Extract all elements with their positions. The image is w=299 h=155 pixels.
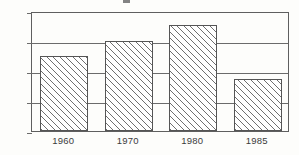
bar-chart: 0%4%8%12%16% 1960197019801985: [0, 0, 299, 155]
gridline: [32, 43, 288, 44]
y-axis-tick: [27, 103, 32, 104]
x-axis-tick-label: 1980: [181, 135, 203, 146]
cropped-title-remnant: [123, 0, 130, 3]
y-axis-tick: [27, 13, 32, 14]
bar-1980: [169, 25, 217, 132]
x-axis-tick-label: 1960: [52, 135, 74, 146]
x-axis-tick-label: 1985: [246, 135, 268, 146]
bar-1960: [40, 56, 88, 131]
bar-1970: [105, 41, 153, 131]
bar-1985: [234, 79, 282, 132]
y-axis-tick: [27, 73, 32, 74]
plot-area: 0%4%8%12%16%: [31, 12, 289, 132]
y-axis-tick: [27, 133, 32, 134]
x-axis-tick-label: 1970: [117, 135, 139, 146]
y-axis-tick: [27, 43, 32, 44]
